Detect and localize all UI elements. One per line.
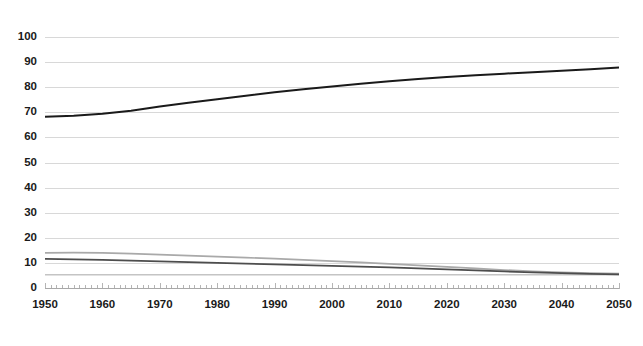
x-axis-tick-label: 1980	[204, 298, 230, 310]
y-axis-tick-label: 10	[24, 256, 37, 268]
y-axis-tick-label: 100	[18, 30, 37, 42]
line-chart: 0102030405060708090100 19501960197019801…	[0, 0, 643, 346]
x-axis-tick-label: 2030	[491, 298, 517, 310]
y-axis-labels: 0102030405060708090100	[18, 30, 37, 293]
x-axis-tick-label: 2010	[377, 298, 403, 310]
x-axis-tick-label: 2050	[606, 298, 632, 310]
y-axis-tick-label: 0	[31, 281, 37, 293]
chart-container: 0102030405060708090100 19501960197019801…	[0, 0, 643, 346]
x-axis-tick-label: 2020	[434, 298, 460, 310]
y-axis-tick-label: 60	[24, 130, 37, 142]
x-axis-ticks	[46, 283, 620, 289]
x-axis-tick-label: 1990	[262, 298, 288, 310]
x-axis-labels: 1950196019701980199020002010202020302040…	[32, 298, 632, 310]
x-axis-tick-label: 1960	[90, 298, 116, 310]
series-lines	[45, 68, 619, 275]
y-axis-tick-label: 80	[24, 80, 37, 92]
y-axis-tick-label: 20	[24, 231, 37, 243]
y-axis-tick-label: 40	[24, 181, 37, 193]
x-axis-tick-label: 2000	[319, 298, 345, 310]
x-axis-tick-label: 1970	[147, 298, 173, 310]
x-axis-tick-label: 2040	[549, 298, 575, 310]
y-axis-tick-label: 90	[24, 55, 37, 67]
series-line-series-1	[45, 68, 619, 117]
y-axis-tick-label: 30	[24, 206, 37, 218]
x-axis-tick-label: 1950	[32, 298, 58, 310]
y-axis-tick-label: 50	[24, 156, 37, 168]
y-axis-tick-label: 70	[24, 105, 37, 117]
